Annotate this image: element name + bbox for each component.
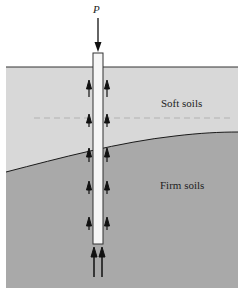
pile-diagram: [0, 0, 242, 292]
load-label: P: [93, 3, 100, 15]
load-arrow-icon: [95, 18, 102, 52]
pile: [93, 53, 103, 244]
soft-soils-label: Soft soils: [161, 97, 202, 109]
firm-soils-label: Firm soils: [160, 179, 204, 191]
